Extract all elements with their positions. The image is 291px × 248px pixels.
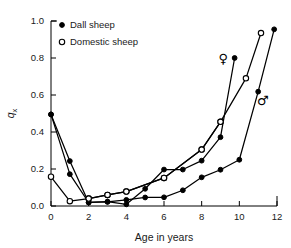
series-line-dall-sheep-female (51, 58, 235, 204)
y-axis-title: qx (4, 108, 19, 118)
series-line-domestic-sheep-female (51, 33, 261, 201)
legend-label-1: Domestic sheep (70, 36, 138, 47)
y-tick-label: 1.0 (31, 15, 44, 26)
y-tick-label: 0.6 (31, 89, 44, 100)
data-point-open (86, 196, 91, 201)
x-tick-label: 6 (161, 211, 166, 222)
y-tick-label: 0.2 (31, 163, 44, 174)
data-point-open (161, 175, 166, 180)
data-point-filled (124, 197, 129, 202)
data-point-filled (237, 157, 242, 162)
data-point-filled (67, 159, 72, 164)
data-point-filled (218, 167, 223, 172)
data-point-open (199, 147, 204, 152)
data-point-filled (49, 112, 54, 117)
male-symbol: ♂ (257, 93, 269, 108)
data-point-filled (199, 175, 204, 180)
data-point-filled (143, 195, 148, 200)
x-tick-label: 8 (199, 211, 204, 222)
data-point-open (48, 174, 53, 179)
female-symbol: ♀ (219, 51, 229, 66)
data-point-open (67, 198, 72, 203)
legend-marker-filled (60, 23, 65, 28)
x-tick-label: 10 (234, 211, 245, 222)
data-point-filled (180, 167, 185, 172)
legend-marker-open (59, 39, 64, 44)
x-axis-title: Age in years (135, 231, 193, 243)
survival-rate-chart: 0.00.20.40.60.81.0024681012Age in yearsq… (0, 0, 291, 248)
data-point-filled (199, 158, 204, 163)
x-tick-label: 12 (272, 211, 283, 222)
data-point-filled (232, 56, 237, 61)
data-point-open (218, 119, 223, 124)
chart-figure: 0.00.20.40.60.81.0024681012Age in yearsq… (0, 0, 291, 248)
x-tick-label: 2 (86, 211, 91, 222)
legend-label-0: Dall sheep (70, 19, 115, 30)
data-point-filled (143, 186, 148, 191)
x-tick-label: 0 (48, 211, 53, 222)
data-point-filled (218, 135, 223, 140)
data-point-filled (180, 188, 185, 193)
data-point-open (105, 192, 110, 197)
data-point-open (258, 30, 263, 35)
data-point-filled (162, 195, 167, 200)
y-tick-label: 0.4 (31, 126, 44, 137)
data-point-filled (67, 172, 72, 177)
data-point-filled (272, 27, 277, 32)
y-tick-label: 0.0 (31, 200, 44, 211)
data-point-filled (162, 167, 167, 172)
data-point-open (243, 76, 248, 81)
x-tick-label: 4 (124, 211, 129, 222)
y-tick-label: 0.8 (31, 52, 44, 63)
data-point-open (124, 189, 129, 194)
data-point-filled (105, 200, 110, 205)
